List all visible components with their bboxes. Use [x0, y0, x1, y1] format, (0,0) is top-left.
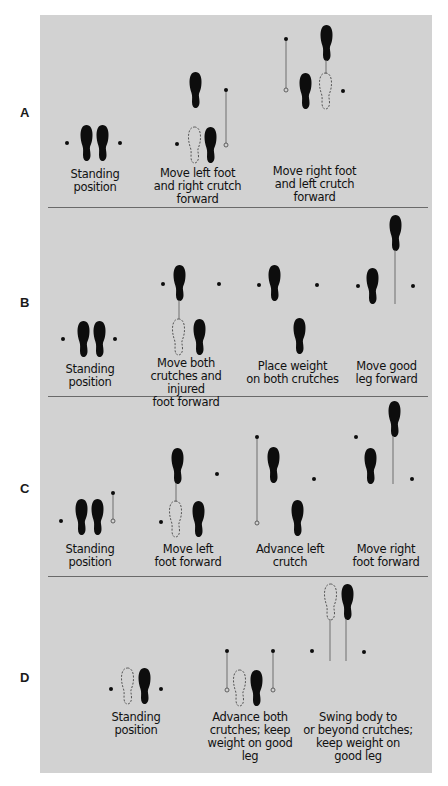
caption-d-standing: Standingposition	[96, 711, 176, 737]
previous-foot-outline-icon	[189, 127, 201, 163]
right-foot-forward-icon	[321, 25, 333, 61]
row-b-step2-art	[161, 265, 221, 355]
row-c-step4-art	[354, 401, 414, 484]
left-foot-icon	[300, 73, 312, 109]
row-b-standing-art	[61, 321, 117, 357]
caption-c-standing: Standingposition	[50, 543, 130, 569]
caption-b-step3: Place weighton both crutches	[245, 360, 340, 386]
row-c-step3-art	[255, 435, 316, 536]
row-a-step2-art	[175, 72, 228, 163]
crutch-tip-dot	[175, 142, 179, 146]
row-d-step3-art	[310, 584, 366, 661]
caption-a-step3: Move right footand left crutchforward	[267, 165, 362, 204]
left-foot-icon	[81, 125, 93, 161]
row-b-step4-art	[356, 215, 415, 304]
caption-d-step3: Swing body toor beyond crutches;keep wei…	[302, 711, 414, 763]
caption-b-standing: Standingposition	[50, 363, 130, 389]
caption-a-standing: Standingposition	[55, 168, 135, 194]
row-d-step2-art	[225, 649, 275, 706]
caption-b-step2: Move bothcrutches and injuredfoot forwar…	[130, 357, 242, 409]
caption-c-step4: Move rightfoot forward	[345, 543, 427, 569]
crutch-tip-dot	[65, 141, 69, 145]
caption-a-step2: Move left footand right crutchforward	[150, 167, 245, 206]
row-c-step2-art	[159, 448, 219, 537]
row-c-standing-art	[59, 491, 115, 535]
caption-b-step4: Move goodleg forward	[349, 360, 424, 386]
crutch-tip-dot	[118, 141, 122, 145]
right-foot-icon	[205, 127, 217, 163]
caption-c-step2: Move leftfoot forward	[143, 543, 233, 569]
row-b-step3-art	[257, 265, 319, 354]
row-a-step3-art	[284, 25, 345, 109]
left-foot-forward-icon	[190, 72, 202, 108]
row-a-standing-art	[65, 125, 122, 161]
caption-d-step2: Advance bothcrutches; keepweight on good…	[205, 711, 295, 763]
caption-c-step3: Advance leftcrutch	[248, 543, 332, 569]
right-foot-icon	[97, 125, 109, 161]
row-d-standing-art	[109, 668, 163, 704]
previous-foot-outline-icon	[320, 73, 332, 109]
